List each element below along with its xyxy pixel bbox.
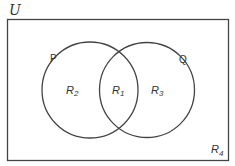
region-r3-label: R3 <box>151 84 164 98</box>
universe-label: U <box>9 2 22 18</box>
set-q-label: Q <box>179 54 187 65</box>
region-r4-label: R4 <box>211 143 224 158</box>
region-r2-label: R2 <box>66 84 79 98</box>
venn-diagram: U P Q R2 R1 R3 R4 <box>0 0 235 166</box>
set-p-label: P <box>50 53 57 64</box>
region-r1-label: R1 <box>112 84 124 98</box>
